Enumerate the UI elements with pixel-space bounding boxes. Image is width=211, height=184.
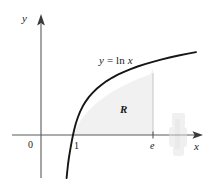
graph-svg <box>0 0 211 184</box>
figure-canvas: y x 0 1 e R y=lnx <box>0 0 211 184</box>
curve-equation-argument: x <box>128 54 133 66</box>
origin-label: 0 <box>28 140 33 150</box>
curve-equation-label: y=lnx <box>99 55 133 66</box>
region-label-r: R <box>120 104 127 115</box>
curve-equation-equals: = <box>107 54 113 66</box>
curve-equation-lhs: y <box>99 54 104 66</box>
y-axis-arrowhead <box>37 14 45 26</box>
x-axis-label: x <box>194 141 199 152</box>
x-tick-label-e: e <box>150 141 154 151</box>
curve-equation-function: ln <box>116 54 125 66</box>
x-tick-label-1: 1 <box>74 141 79 151</box>
y-axis-label: y <box>22 13 27 24</box>
